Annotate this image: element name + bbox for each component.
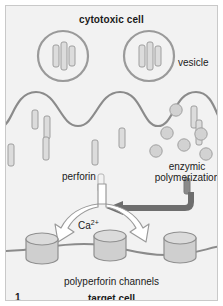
label-enzymic-line1: enzymic xyxy=(149,162,218,173)
perforin-monomer xyxy=(147,42,153,70)
perforin-monomer xyxy=(69,46,75,66)
perforin-monomer xyxy=(8,144,14,166)
perforin-monomer xyxy=(43,137,49,160)
polyperforin-channel xyxy=(164,232,196,263)
label-target-cell: target cell xyxy=(6,294,217,301)
cytotoxic-cell-diagram xyxy=(6,6,217,300)
polyperforin-channel xyxy=(26,233,58,264)
label-enzymic-polymerization: enzymicpolymerization xyxy=(149,162,218,183)
figure-number: 1 xyxy=(15,293,21,301)
perforin-monomer xyxy=(61,42,67,70)
calcium-charge: 2+ xyxy=(91,219,99,226)
polymer-subunit xyxy=(195,128,207,140)
label-cytotoxic-cell: cytotoxic cell xyxy=(6,15,217,26)
vesicle-group-right xyxy=(124,31,174,81)
perforin-monomer xyxy=(92,140,98,165)
polymerized-perforin-group xyxy=(150,104,212,160)
label-polyperforin-channels: polyperforin channels xyxy=(6,277,217,288)
perforin-monomer xyxy=(139,45,145,67)
label-calcium-ion: Ca2+ xyxy=(78,221,99,232)
label-enzymic-line2: polymerization xyxy=(149,173,218,184)
figure-frame: cytotoxic cell vesicle perforin enzymicp… xyxy=(5,5,218,301)
label-perforin: perforin xyxy=(62,172,96,183)
vesicle-group-left xyxy=(38,31,88,81)
polymer-subunit xyxy=(178,139,190,151)
perforin-monomer xyxy=(155,46,161,66)
perforin-monomer xyxy=(119,128,125,148)
polymer-subunit xyxy=(161,127,173,139)
label-vesicle: vesicle xyxy=(178,58,209,69)
figure-container: cytotoxic cell vesicle perforin enzymicp… xyxy=(0,0,223,306)
perforin-monomer xyxy=(32,110,38,129)
polymer-subunit xyxy=(200,148,212,160)
perforin-monomer xyxy=(44,116,50,139)
polymer-subunit xyxy=(170,104,182,116)
perforin-monomer xyxy=(53,45,59,67)
calcium-symbol: Ca xyxy=(78,220,91,231)
polymer-subunit xyxy=(150,145,162,157)
polyperforin-channel xyxy=(94,230,126,261)
